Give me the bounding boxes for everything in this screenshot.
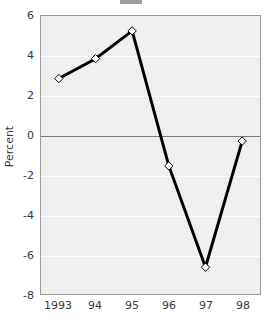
cropped-title-remnant bbox=[120, 0, 142, 4]
y-axis-tick-label: -2 bbox=[4, 170, 34, 181]
x-axis-tick-labels: 19939495969798 bbox=[40, 300, 261, 320]
y-axis-tick-label: -6 bbox=[4, 250, 34, 261]
series-line bbox=[59, 31, 242, 267]
data-point-marker bbox=[238, 137, 246, 145]
y-axis-tick-label: 0 bbox=[4, 130, 34, 141]
y-axis-tick-label: 6 bbox=[4, 10, 34, 21]
y-axis-tick-label: -8 bbox=[4, 290, 34, 301]
plot-area bbox=[40, 15, 261, 295]
x-axis-tick-label: 98 bbox=[218, 300, 268, 311]
y-axis-tick-label: 4 bbox=[4, 50, 34, 61]
y-axis-tick-label: 2 bbox=[4, 90, 34, 101]
chart-figure: Percent 6420-2-4-6-8 19939495969798 bbox=[0, 0, 272, 329]
data-point-marker bbox=[201, 263, 209, 271]
y-axis-tick-label: -4 bbox=[4, 210, 34, 221]
data-point-marker bbox=[165, 162, 173, 170]
y-axis-tick-labels: 6420-2-4-6-8 bbox=[0, 15, 34, 295]
line-series bbox=[41, 16, 260, 294]
